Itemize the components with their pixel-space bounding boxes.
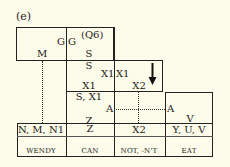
down-arrow-icon [148,63,157,86]
word-not: NOT, -N'T [121,146,158,156]
dotted-line-a-a [114,109,165,110]
divider-wendy-can [66,27,67,157]
label-a-right: A [167,104,174,114]
col-not-symbols: X2 [132,125,145,135]
label-a-left: A [106,104,113,114]
word-can: CAN [81,146,98,156]
dotted-line-m [42,61,43,123]
word-eat: EAT [181,146,196,156]
col-eat-symbols: Y, U, V [173,125,206,135]
label-x1-bottom: X1 [82,81,95,91]
mid-box-right-edge [162,60,163,91]
label-m: M [37,49,47,59]
col-wendy-symbols: N, M, N1 [18,125,64,135]
word-wendy: WENDY [26,146,56,156]
label-x1-mid-left: X1 [101,69,114,79]
col-can-symbols: Z [87,124,94,134]
label-g-left: G [57,37,65,47]
label-x2-mid: X2 [132,81,145,91]
label-s-mid: S [86,61,93,71]
figure-label: (e) [16,12,31,22]
divider-can-not [114,27,115,157]
bottom-table-bottom [17,156,213,157]
label-q6: (Q6) [81,30,103,40]
bottom-table-row-divider [17,136,213,137]
dotted-line-x2 [138,92,139,123]
label-s-x1: S, X1 [76,92,102,102]
label-s-top: S [86,49,93,59]
label-x1-mid-right: X1 [116,69,129,79]
label-g-right: G [68,37,76,47]
